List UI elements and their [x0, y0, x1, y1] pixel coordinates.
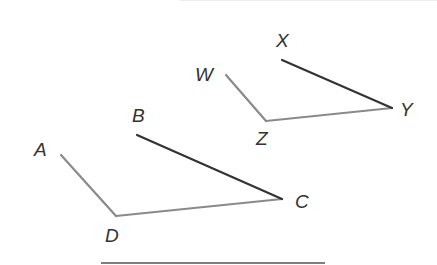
segment-zy: [266, 108, 392, 121]
segment-wz: [226, 75, 266, 121]
label-b: B: [132, 105, 145, 126]
segment-dc: [116, 199, 282, 216]
label-y: Y: [400, 99, 414, 120]
geometry-diagram: A B C D W X Y Z: [0, 0, 437, 265]
label-d: D: [105, 225, 119, 246]
label-c: C: [295, 191, 309, 212]
segment-ad: [61, 155, 116, 216]
label-w: W: [195, 64, 215, 85]
segment-xy: [282, 60, 392, 108]
label-a: A: [33, 139, 47, 160]
label-x: X: [275, 30, 290, 51]
label-z: Z: [255, 128, 269, 149]
